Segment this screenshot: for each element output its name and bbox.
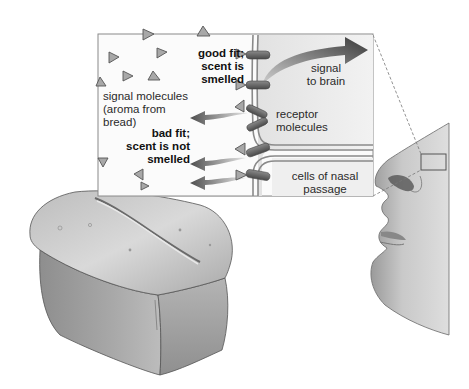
cells-of-nasal-passage-label: cells of nasal passage	[280, 170, 370, 196]
receptor-2	[246, 81, 270, 89]
signal-to-brain-label: signal to brain	[296, 62, 356, 88]
face-illustration	[371, 123, 449, 335]
receptor-molecules-label: receptor molecules	[276, 108, 356, 134]
good-fit-label: good fit; scent is smelled	[186, 47, 244, 86]
receptor-1	[246, 51, 270, 59]
bad-fit-label: bad fit; scent is not smelled	[120, 127, 190, 166]
signal-molecules-label: signal molecules (aroma from bread)	[103, 90, 213, 129]
diagram: good fit; scent is smelled signal molecu…	[0, 0, 469, 389]
bread-illustration	[30, 191, 233, 375]
